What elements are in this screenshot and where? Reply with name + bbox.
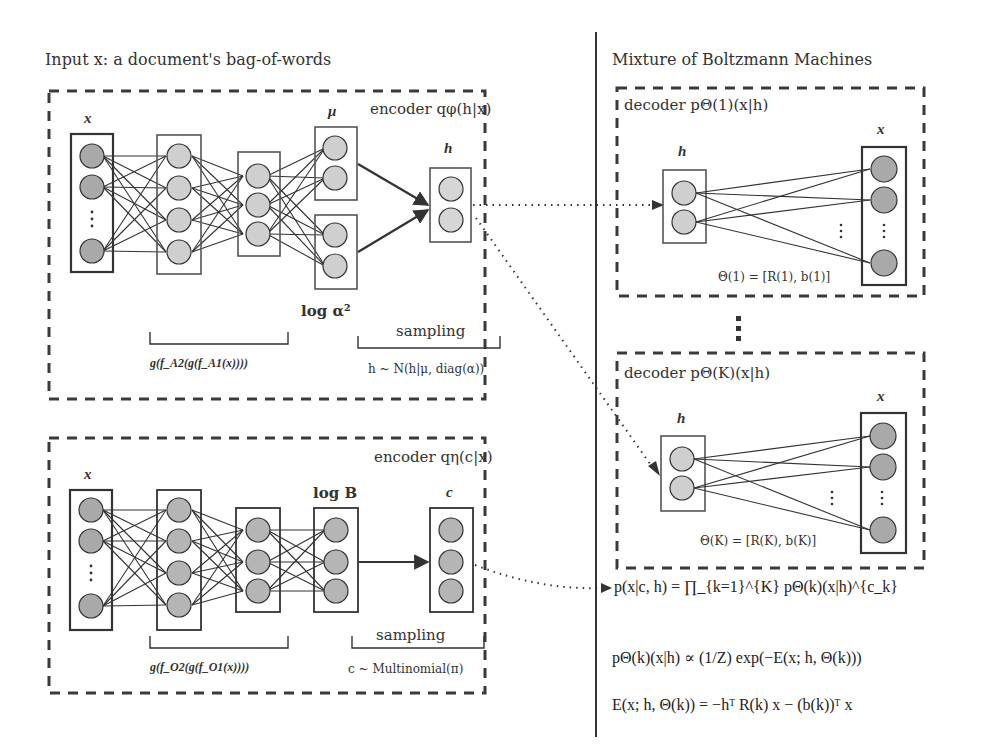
equation-energy: E(x; h, Θ(k)) = −hᵀ R(k) x − (b(k))ᵀ x: [612, 696, 852, 714]
sampling-label-c: sampling: [376, 626, 445, 644]
sampling-label-h: sampling: [396, 322, 465, 340]
equation-boltzmann: pΘ(k)(x|h) ∝ (1/Z) exp(−E(x; h, Θ(k))): [612, 648, 862, 667]
decoder-K-x-label: x: [877, 388, 885, 405]
decoder-1-x-label: x: [877, 121, 885, 138]
network-function-label-c: g(f_O2(g(f_O1(x)))): [150, 660, 249, 675]
network-function-label-h: g(f_A2(g(f_A1(x)))): [150, 356, 248, 371]
arrow-logalpha-to-h: [358, 210, 428, 252]
decoder-1-params: Θ(1) = [R(1), b(1)]: [718, 270, 830, 284]
vertical-ellipsis-icon: [736, 316, 741, 341]
decoder-K-title: decoder pΘ(K)(x|h): [624, 364, 770, 382]
dotted-h-to-decoderK: [476, 218, 653, 468]
encoder-h-connections-2: [192, 156, 243, 252]
layer-logalpha-label: log α²: [301, 302, 351, 320]
decoder-K-params: Θ(K) = [R(K), b(K)]: [700, 534, 816, 548]
architecture-diagram: [0, 0, 994, 746]
bracket-network: [150, 332, 288, 344]
equation-likelihood: p(x|c, h) = ∏_{k=1}^{K} pΘ(k)(x|h)^{c_k}: [614, 578, 898, 596]
ellipsis-icon: [91, 211, 94, 228]
layer-mu-label: μ: [328, 103, 336, 120]
decoder-1-h-label: h: [678, 143, 686, 160]
encoder-h-connections-3: [267, 148, 325, 266]
layer-c-label: c: [446, 484, 453, 501]
encoder-h-title: encoder qφ(h|x): [370, 100, 491, 118]
sampling-formula-c: c ~ Multinomial(π): [348, 662, 463, 676]
encoder-c-title: encoder qη(c|x): [374, 448, 493, 466]
arrow-mu-to-h: [358, 164, 428, 205]
decoder-K-h-label: h: [677, 410, 685, 427]
sampling-formula-h: h ~ N(h|μ, diag(α)): [368, 362, 484, 376]
layer-logB-label: log B: [313, 484, 357, 502]
layer-x-label-c: x: [84, 466, 92, 483]
decoder-1-title: decoder pΘ(1)(x|h): [624, 96, 768, 114]
dotted-c-to-likelihood: [475, 565, 600, 588]
layer-h-label: h: [444, 140, 452, 157]
layer-x-label: x: [84, 110, 92, 127]
